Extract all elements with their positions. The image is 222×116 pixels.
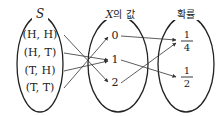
probability-label: 확률	[177, 9, 195, 20]
sample-element-ht: (H, T)	[24, 46, 57, 59]
arrow-2-to-quarter	[121, 43, 176, 83]
prob-half-num: 1	[184, 65, 190, 76]
x-value-0: 0	[112, 29, 119, 42]
sample-element-tt: (T, T)	[26, 81, 55, 94]
x-value-2: 2	[112, 76, 119, 89]
diagram-canvas: S X의 값 확률 (H, H) (H, T) (T, H) (T, T) 0 …	[0, 0, 222, 116]
sample-element-hh: (H, H)	[23, 28, 58, 41]
random-variable-mapping-diagram: S X의 값 확률 (H, H) (H, T) (T, H) (T, T) 0 …	[0, 0, 222, 116]
x-value-1: 1	[112, 53, 119, 66]
prob-quarter-den: 4	[184, 42, 190, 53]
arrow-hh-to-2	[64, 35, 108, 82]
x-values-label: X의 값	[104, 8, 134, 21]
sample-space-label: S	[36, 7, 44, 21]
sample-element-th: (T, H)	[25, 64, 56, 77]
prob-quarter-num: 1	[184, 29, 190, 40]
prob-half-den: 2	[184, 78, 190, 89]
arrow-0-to-quarter	[121, 36, 176, 40]
